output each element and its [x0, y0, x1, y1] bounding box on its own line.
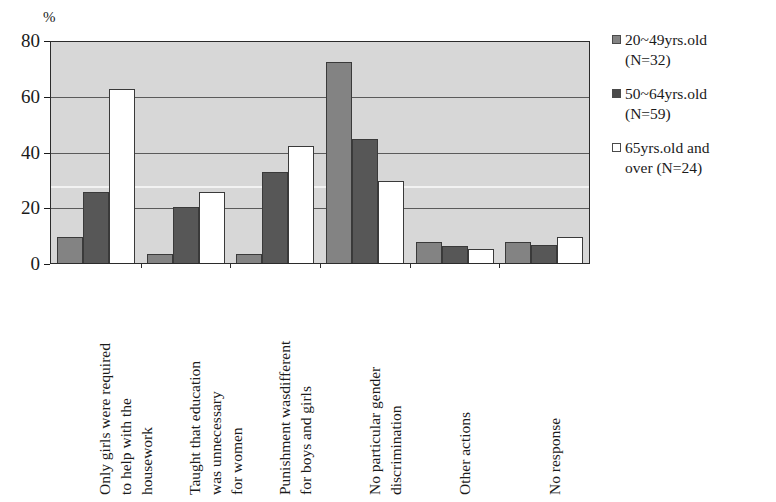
bar[interactable] — [236, 254, 262, 263]
bar-groups — [51, 42, 589, 263]
bar-group — [230, 42, 320, 263]
y-tick-label-40: 40 — [6, 143, 40, 162]
bar[interactable] — [109, 89, 135, 263]
y-tick-label-60: 60 — [6, 87, 40, 106]
y-tick-mark-0 — [44, 264, 50, 265]
bar[interactable] — [57, 237, 83, 263]
square-outline-white-icon — [612, 143, 621, 152]
bar-group — [320, 42, 410, 263]
legend-item-label: 50~64yrs.old (N=59) — [625, 84, 707, 125]
legend-item-label: 20~49yrs.old (N=32) — [625, 30, 707, 71]
legend-item[interactable]: 65yrs.old and over (N=24) — [612, 138, 776, 179]
bar[interactable] — [199, 192, 225, 263]
x-axis-label: Punishment wasdifferent for boys and gir… — [275, 270, 317, 495]
bar[interactable] — [326, 62, 352, 263]
legend-item[interactable]: 50~64yrs.old (N=59) — [612, 84, 776, 125]
bar-group — [51, 42, 141, 263]
bar-group — [410, 42, 500, 263]
legend-item[interactable]: 20~49yrs.old (N=32) — [612, 30, 776, 71]
bar-group — [141, 42, 231, 263]
bar[interactable] — [288, 146, 314, 263]
x-label-cell: Only girls were required to help with th… — [50, 266, 140, 502]
x-label-cell: Other actions — [410, 266, 500, 502]
x-axis-category-labels: Only girls were required to help with th… — [50, 266, 590, 502]
x-label-cell: Taught that education was unnecessary fo… — [140, 266, 230, 502]
plot-area — [50, 41, 590, 264]
x-label-cell: No response — [500, 266, 590, 502]
square-filled-gray-icon — [612, 35, 621, 44]
bar[interactable] — [173, 207, 199, 263]
legend: 20~49yrs.old (N=32)50~64yrs.old (N=59)65… — [612, 30, 776, 192]
x-label-cell: Punishment wasdifferent for boys and gir… — [230, 266, 320, 502]
x-axis-label: No response — [545, 270, 566, 495]
bar[interactable] — [531, 245, 557, 263]
legend-item-label: 65yrs.old and over (N=24) — [625, 138, 709, 179]
bar-chart: % 806040200 Only girls were required to … — [0, 0, 776, 502]
x-label-cell: No particular gender discrimination — [320, 266, 410, 502]
y-tick-label-20: 20 — [6, 198, 40, 217]
square-filled-dark-icon — [612, 89, 621, 98]
bar[interactable] — [352, 139, 378, 263]
x-axis-label: Other actions — [455, 270, 476, 495]
y-axis-unit-label: % — [43, 10, 56, 25]
bar[interactable] — [505, 242, 531, 263]
bar[interactable] — [442, 246, 468, 263]
bar[interactable] — [416, 242, 442, 263]
bar[interactable] — [468, 249, 494, 263]
y-tick-label-0: 0 — [6, 254, 40, 273]
bar[interactable] — [83, 192, 109, 263]
bar[interactable] — [262, 172, 288, 263]
bar[interactable] — [147, 254, 173, 263]
x-axis-label: No particular gender discrimination — [365, 270, 407, 495]
bar[interactable] — [378, 181, 404, 263]
y-tick-label-80: 80 — [6, 31, 40, 50]
bar-group — [499, 42, 589, 263]
bar[interactable] — [557, 237, 583, 263]
